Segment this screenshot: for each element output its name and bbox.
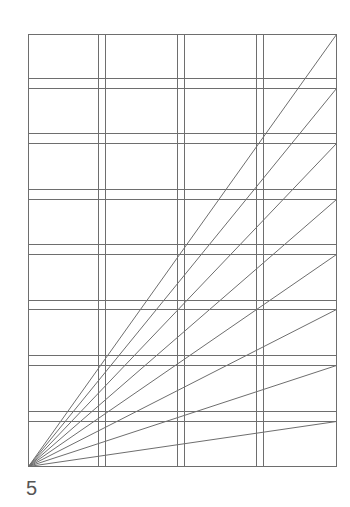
grid-fan-diagram — [0, 0, 350, 507]
diagonal-fan-line — [29, 255, 337, 467]
diagonal-fan-line — [29, 422, 337, 467]
figure-number-label: 5 — [26, 478, 37, 498]
diagonal-fan-line — [29, 144, 337, 467]
diagonal-fan-line — [29, 366, 337, 467]
diagonal-fan-lines — [29, 35, 337, 467]
diagonal-fan-line — [29, 89, 337, 467]
diagonal-fan-line — [29, 35, 337, 467]
